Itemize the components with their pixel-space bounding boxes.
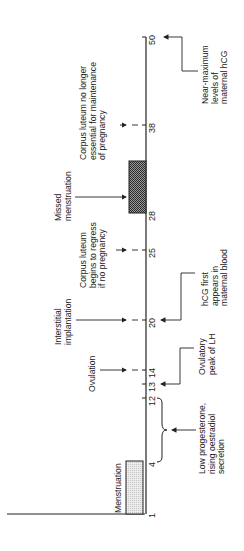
tick-label-25: 25 <box>148 248 157 258</box>
pregnancy-timeline-diagram: 1 4 12 13 14 20 25 28 38 50 Menstruation… <box>0 0 244 551</box>
implantation-label: Interstitial implantation <box>54 299 73 345</box>
missed-menstruation-bar <box>129 161 146 213</box>
low-progesterone-label: Low progesterone, rising oestradiol secr… <box>198 403 227 474</box>
tick-label-12: 12 <box>148 396 157 406</box>
missed-menstruation-label: Missed menstruation <box>54 171 73 221</box>
tick-label-4: 4 <box>148 462 157 467</box>
tick-label-50: 50 <box>148 35 157 45</box>
tick-label-20: 20 <box>148 318 157 328</box>
tick-label-38: 38 <box>148 123 157 133</box>
tick-label-1: 1 <box>148 513 157 518</box>
menstruation-bar <box>126 461 143 514</box>
tick-label-28: 28 <box>148 211 157 221</box>
lh-peak-label: Ovulatory peak of LH <box>198 333 217 375</box>
brace-4-12 <box>157 398 167 462</box>
menstruation-label: Menstruation <box>114 463 124 513</box>
ovulation-label: Ovulation <box>88 356 98 392</box>
tick-label-13: 13 <box>148 382 157 392</box>
corpus-luteum-not-essential-label: Corpus luteum no longer essential for ma… <box>79 62 108 160</box>
corpus-luteum-regress-label: Corpus luteum begins to regress if no pr… <box>79 222 108 288</box>
hcg-max-label: Near-maximum levels of maternal hCG <box>201 45 230 104</box>
right-arrows <box>161 37 198 430</box>
tick-label-14: 14 <box>148 368 157 378</box>
hcg-first-label: hCG first appears in maternal blood <box>201 249 230 306</box>
